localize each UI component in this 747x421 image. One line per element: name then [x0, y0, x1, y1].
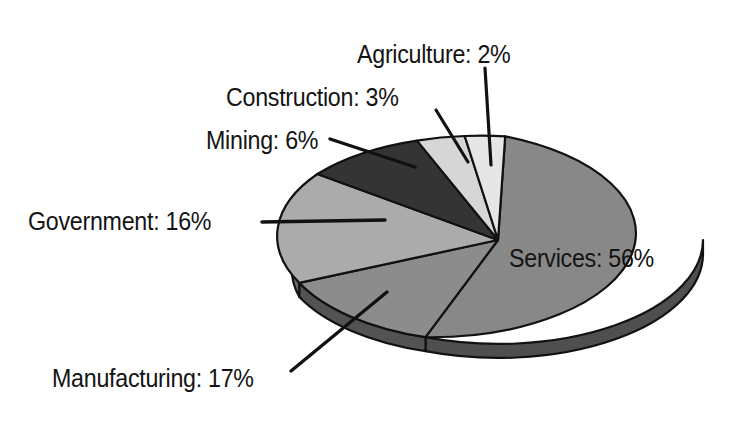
pie-chart-figure: Agriculture: 2% Construction: 3% Mining:…: [0, 0, 747, 421]
slice-label-agriculture: Agriculture: 2%: [357, 42, 510, 67]
slice-label-manufacturing: Manufacturing: 17%: [52, 366, 254, 391]
slice-label-construction: Construction: 3%: [226, 85, 399, 110]
slice-label-services: Services: 56%: [509, 246, 654, 271]
slice-label-mining: Mining: 6%: [206, 128, 318, 153]
pie-top-face: [277, 136, 636, 338]
leader-line-government: [262, 220, 385, 222]
slice-label-government: Government: 16%: [28, 209, 211, 234]
